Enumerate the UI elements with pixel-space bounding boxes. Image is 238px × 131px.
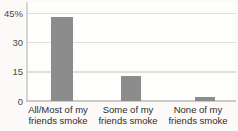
y-tick-label: 45% (0, 8, 23, 19)
gridline (28, 13, 236, 15)
y-axis-line (26, 2, 28, 101)
x-category-label: None of my friends smoke (153, 104, 238, 126)
bar (121, 76, 141, 101)
bar-chart: 0153045% All/Most of my friends smokeSom… (0, 0, 238, 131)
y-tick-label: 30 (0, 37, 23, 48)
bar (51, 17, 73, 101)
y-tick-label: 15 (0, 66, 23, 77)
bar (195, 97, 215, 101)
